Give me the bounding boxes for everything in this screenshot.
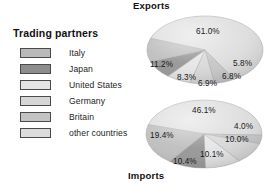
legend-item-other-countries[interactable]: other countries	[13, 126, 145, 140]
imports-slice-label-britain: 4.0%	[234, 122, 253, 131]
exports-slice-label-germany: 6.8%	[222, 72, 241, 81]
legend-item-united-states[interactable]: United States	[13, 78, 145, 92]
exports-slice-label-italy: 11.2%	[150, 60, 173, 69]
legend-item-label: Britain	[69, 112, 94, 122]
legend-swatch-icon	[20, 64, 51, 74]
exports-slice-label-united-states: 6.9%	[198, 79, 217, 88]
legend-item-italy[interactable]: Italy	[13, 46, 145, 60]
legend-title: Trading partners	[13, 27, 145, 39]
legend-item-label: Germany	[69, 96, 105, 106]
legend-item-britain[interactable]: Britain	[13, 110, 145, 124]
exports-slice-label-japan: 8.3%	[177, 73, 196, 82]
imports-slice-label-united-states: 10.1%	[200, 150, 224, 159]
exports-slice-label-britain: 5.8%	[233, 59, 252, 68]
exports-slice-label-other-countries: 61.0%	[196, 27, 220, 36]
charts-container: Exports Imports 61.0% 5.8% 6.8% 6.9% 8.3…	[140, 0, 269, 195]
legend-item-label: Japan	[69, 64, 93, 74]
legend-swatch-icon	[20, 48, 51, 58]
legend-swatch-icon	[20, 128, 51, 138]
legend-swatch-icon	[20, 112, 51, 122]
chart-page: Trading partners Italy Japan United Stat…	[0, 0, 269, 195]
legend-item-germany[interactable]: Germany	[13, 94, 145, 108]
imports-slice-label-other-countries: 46.1%	[192, 106, 216, 115]
imports-slice-label-germany: 10.0%	[225, 135, 249, 144]
legend-item-label: United States	[69, 80, 122, 90]
imports-slice-label-japan: 10.4%	[173, 157, 197, 166]
legend-swatch-icon	[20, 80, 51, 90]
legend-list: Italy Japan United States Germany Britai…	[13, 46, 145, 140]
legend: Trading partners Italy Japan United Stat…	[13, 27, 145, 140]
legend-item-japan[interactable]: Japan	[13, 62, 145, 76]
legend-item-label: Italy	[69, 48, 85, 58]
legend-swatch-icon	[20, 96, 51, 106]
imports-slice-label-italy: 19.4%	[150, 131, 174, 140]
legend-item-label: other countries	[69, 128, 127, 138]
